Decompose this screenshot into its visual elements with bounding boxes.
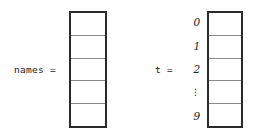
array-index-label: 1 <box>187 34 200 57</box>
array-cell <box>71 59 105 82</box>
array-index-label: 9 <box>187 105 200 128</box>
array-diagram-figure: names = t = 0 1 2 ⋮ 9 <box>0 0 262 140</box>
array-index-label: 2 <box>187 58 200 81</box>
array-cell <box>71 104 105 126</box>
array-box-names <box>69 11 107 128</box>
array-cell <box>209 104 241 126</box>
array-cell <box>71 13 105 36</box>
array-group-names: names = <box>14 11 107 128</box>
array-label-t: t = <box>155 65 173 75</box>
array-cell <box>209 36 241 59</box>
array-cell <box>209 13 241 36</box>
array-cell <box>71 81 105 104</box>
array-group-t: t = 0 1 2 ⋮ 9 <box>155 11 243 128</box>
array-index-column-t: 0 1 2 ⋮ 9 <box>187 11 202 128</box>
array-index-ellipsis: ⋮ <box>187 81 202 104</box>
array-box-t <box>207 11 243 128</box>
array-label-names: names = <box>14 65 56 75</box>
array-cell <box>209 59 241 82</box>
array-cell <box>71 36 105 59</box>
array-index-label: 0 <box>187 11 200 34</box>
array-cell <box>209 81 241 104</box>
